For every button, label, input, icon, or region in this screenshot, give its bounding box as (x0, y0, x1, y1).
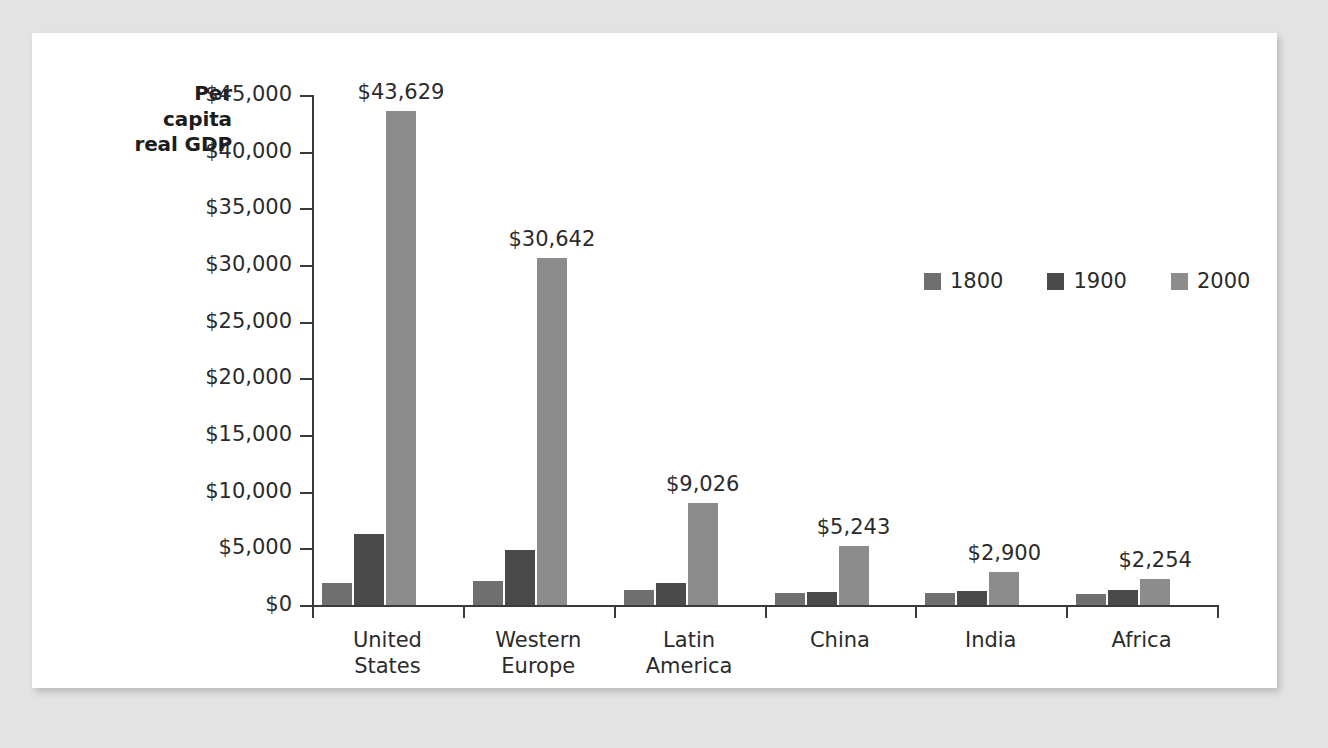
page-root: Per capita real GDP $0$5,000$10,000$15,0… (0, 0, 1328, 748)
y-axis-tick: $0 (300, 605, 312, 607)
y-axis-tick-label: $10,000 (205, 479, 292, 503)
bar-data-label: $2,254 (1118, 548, 1191, 572)
bars-wrapper: $30,642 (463, 95, 614, 605)
bar-1800[interactable] (322, 583, 352, 605)
bar-data-label: $9,026 (666, 472, 739, 496)
x-axis-tick (915, 605, 917, 618)
bar-1800[interactable] (925, 593, 955, 605)
y-axis-tick: $30,000 (300, 265, 312, 267)
y-axis-tick: $25,000 (300, 322, 312, 324)
bar-group: $2,900India (915, 95, 1066, 605)
bar-1800[interactable] (1076, 594, 1106, 605)
y-axis-tick: $45,000 (300, 95, 312, 97)
bars-wrapper: $43,629 (312, 95, 463, 605)
x-axis-tick (1217, 605, 1219, 618)
chart-panel: Per capita real GDP $0$5,000$10,000$15,0… (32, 33, 1277, 688)
bar-1800[interactable] (775, 593, 805, 605)
bar-1900[interactable] (505, 550, 535, 605)
bar-group: $9,026LatinAmerica (614, 95, 765, 605)
x-axis-category-label: Africa (1042, 627, 1242, 653)
bar-1900[interactable] (656, 583, 686, 605)
bar-1900[interactable] (807, 592, 837, 605)
bar-chart: Per capita real GDP $0$5,000$10,000$15,0… (32, 33, 1277, 688)
bars-wrapper: $5,243 (765, 95, 916, 605)
x-axis-tick (614, 605, 616, 618)
legend-swatch-icon (1047, 273, 1064, 290)
bar-1900[interactable] (354, 534, 384, 605)
chart-legend: 180019002000 (924, 271, 1250, 292)
y-axis-tick: $15,000 (300, 435, 312, 437)
bar-group: $2,254Africa (1066, 95, 1217, 605)
bars-wrapper: $2,254 (1066, 95, 1217, 605)
legend-label: 1800 (950, 271, 1003, 292)
bar-2000[interactable] (688, 503, 718, 605)
y-axis-title-line-2: capita (120, 107, 232, 133)
y-axis-tick: $40,000 (300, 152, 312, 154)
legend-swatch-icon (1171, 273, 1188, 290)
bar-data-label: $43,629 (358, 80, 445, 104)
y-axis-tick-label: $40,000 (205, 139, 292, 163)
x-axis-tick (1066, 605, 1068, 618)
legend-label: 1900 (1073, 271, 1126, 292)
y-axis-tick-label: $15,000 (205, 422, 292, 446)
y-axis-tick: $20,000 (300, 378, 312, 380)
y-axis-tick-label: $20,000 (205, 365, 292, 389)
legend-swatch-icon (924, 273, 941, 290)
bar-data-label: $30,642 (508, 227, 595, 251)
bar-data-label: $2,900 (968, 541, 1041, 565)
bar-2000[interactable] (839, 546, 869, 605)
bar-data-label: $5,243 (817, 515, 890, 539)
legend-label: 2000 (1197, 271, 1250, 292)
y-axis-tick-label: $5,000 (219, 535, 292, 559)
bar-1900[interactable] (1108, 590, 1138, 605)
bar-2000[interactable] (537, 258, 567, 605)
x-axis-tick (463, 605, 465, 618)
legend-item-1800[interactable]: 1800 (924, 271, 1003, 292)
x-axis-category-label-line: Africa (1042, 627, 1242, 653)
y-axis-tick: $5,000 (300, 548, 312, 550)
y-axis-tick-label: $25,000 (205, 309, 292, 333)
bar-1900[interactable] (957, 591, 987, 605)
x-axis-tick (312, 605, 314, 618)
x-axis-tick (765, 605, 767, 618)
x-axis-category-label-line: America (589, 653, 789, 679)
bar-2000[interactable] (989, 572, 1019, 605)
bar-1800[interactable] (624, 590, 654, 605)
y-axis-tick-label: $0 (265, 592, 292, 616)
bar-group: $30,642WesternEurope (463, 95, 614, 605)
y-axis-tick: $35,000 (300, 208, 312, 210)
bar-2000[interactable] (386, 111, 416, 605)
bar-group: $5,243China (765, 95, 916, 605)
y-axis-tick-label: $45,000 (205, 82, 292, 106)
y-axis-tick: $10,000 (300, 492, 312, 494)
legend-item-2000[interactable]: 2000 (1171, 271, 1250, 292)
plot-area: $0$5,000$10,000$15,000$20,000$25,000$30,… (312, 95, 1217, 605)
bars-wrapper: $9,026 (614, 95, 765, 605)
bars-wrapper: $2,900 (915, 95, 1066, 605)
legend-item-1900[interactable]: 1900 (1047, 271, 1126, 292)
bar-2000[interactable] (1140, 579, 1170, 605)
bar-group: $43,629UnitedStates (312, 95, 463, 605)
y-axis-tick-label: $35,000 (205, 195, 292, 219)
bar-1800[interactable] (473, 581, 503, 605)
y-axis-tick-label: $30,000 (205, 252, 292, 276)
